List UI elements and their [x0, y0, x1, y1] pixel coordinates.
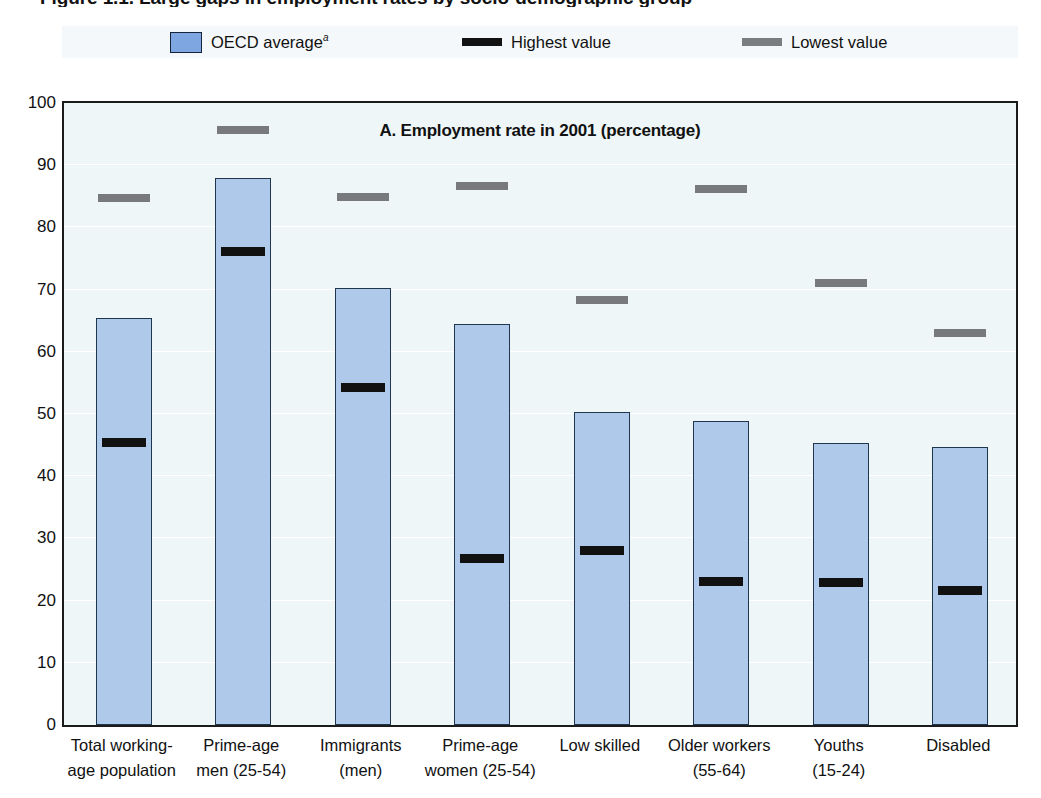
gridline — [64, 351, 1016, 352]
bar-group — [813, 101, 869, 725]
x-axis-labels: Total working-age populationPrime-agemen… — [62, 733, 1018, 795]
bar-group — [932, 101, 988, 725]
marker-highest-value — [102, 438, 146, 447]
bar-group — [693, 101, 749, 725]
marker-lowest-value — [576, 296, 628, 304]
gridline — [64, 164, 1016, 165]
x-axis-tick-label: Disabled — [887, 733, 1031, 758]
marker-lowest-value — [456, 182, 508, 190]
x-axis-tick-label-line: women (25-54) — [409, 758, 553, 783]
y-axis-tick-label: 50 — [0, 404, 56, 424]
bar-group — [96, 101, 152, 725]
legend-label-lowest-value: Lowest value — [791, 33, 887, 52]
x-axis-tick-label-line: (15-24) — [767, 758, 911, 783]
figure-title: Figure 1.1. Large gaps in employment rat… — [40, 0, 1020, 7]
y-axis-tick-label: 80 — [0, 217, 56, 237]
legend-swatch-oecd-average-icon — [170, 32, 202, 53]
marker-highest-value — [580, 546, 624, 555]
bar-oecd-average — [574, 412, 630, 725]
marker-highest-value — [460, 554, 504, 563]
bar-oecd-average — [96, 318, 152, 725]
panel-title: A. Employment rate in 2001 (percentage) — [64, 121, 1016, 141]
y-axis-tick-label: 10 — [0, 653, 56, 673]
legend-label-oecd-average: OECD averagea — [211, 32, 328, 52]
bar-oecd-average — [693, 421, 749, 725]
x-axis-tick-label-line: Disabled — [887, 733, 1031, 758]
marker-highest-value — [938, 586, 982, 595]
legend-swatch-highest-value-icon — [462, 38, 502, 46]
marker-lowest-value — [98, 194, 150, 202]
y-axis-tick-label: 40 — [0, 466, 56, 486]
marker-lowest-value — [815, 279, 867, 287]
y-axis-tick-label: 70 — [0, 280, 56, 300]
legend-item-highest-value: Highest value — [462, 26, 611, 58]
chart-legend: OECD averagea Highest value Lowest value — [62, 26, 1018, 58]
legend-item-oecd-average: OECD averagea — [170, 26, 328, 58]
y-axis-tick-label: 30 — [0, 528, 56, 548]
marker-highest-value — [819, 578, 863, 587]
y-axis-tick-label: 20 — [0, 591, 56, 611]
bar-group — [574, 101, 630, 725]
bar-group — [335, 101, 391, 725]
y-axis: 0102030405060708090100 — [0, 101, 56, 727]
gridline — [64, 226, 1016, 227]
bar-group — [215, 101, 271, 725]
gridline — [64, 600, 1016, 601]
gridline — [64, 413, 1016, 414]
gridline — [64, 537, 1016, 538]
marker-lowest-value — [337, 193, 389, 201]
y-axis-tick-label: 90 — [0, 155, 56, 175]
y-axis-tick-label: 100 — [0, 93, 56, 113]
y-axis-tick-label: 0 — [0, 715, 56, 735]
marker-highest-value — [341, 383, 385, 392]
marker-lowest-value — [934, 329, 986, 337]
bar-oecd-average — [454, 324, 510, 725]
gridline — [64, 662, 1016, 663]
legend-item-lowest-value: Lowest value — [742, 26, 887, 58]
y-axis-tick-label: 60 — [0, 342, 56, 362]
bar-group — [454, 101, 510, 725]
gridline — [64, 475, 1016, 476]
bar-oecd-average — [215, 178, 271, 725]
legend-swatch-lowest-value-icon — [742, 38, 782, 46]
plot-area: A. Employment rate in 2001 (percentage) — [62, 101, 1018, 727]
legend-label-highest-value: Highest value — [511, 33, 611, 52]
marker-highest-value — [699, 577, 743, 586]
marker-lowest-value — [695, 185, 747, 193]
marker-lowest-value — [217, 126, 269, 134]
marker-highest-value — [221, 247, 265, 256]
bar-oecd-average — [335, 288, 391, 725]
gridline — [64, 289, 1016, 290]
